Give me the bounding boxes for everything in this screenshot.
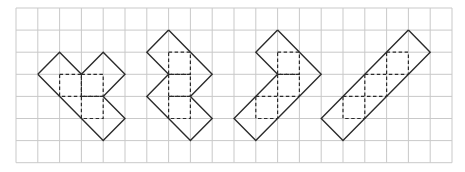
figure-2-outline <box>147 30 212 141</box>
figure-4-dashed-square <box>343 96 365 118</box>
figure-3-dashed-square <box>256 96 278 118</box>
figure-3-dashed-square <box>278 74 300 96</box>
figure-1-dashed-square <box>81 74 103 96</box>
figure-4-dashed-square <box>365 74 387 96</box>
figure-2-dashed-square <box>169 96 191 118</box>
figure-2-dashed-square <box>169 74 191 96</box>
figure-1-dashed-square <box>81 96 103 118</box>
figure-4-outline <box>321 30 430 141</box>
figure-2-dashed-square <box>169 52 191 74</box>
figure-4-dashed-square <box>387 52 409 74</box>
figure-3-dashed-square <box>278 52 300 74</box>
grid-diagram <box>0 0 465 172</box>
figure-1-dashed-square <box>60 74 82 96</box>
